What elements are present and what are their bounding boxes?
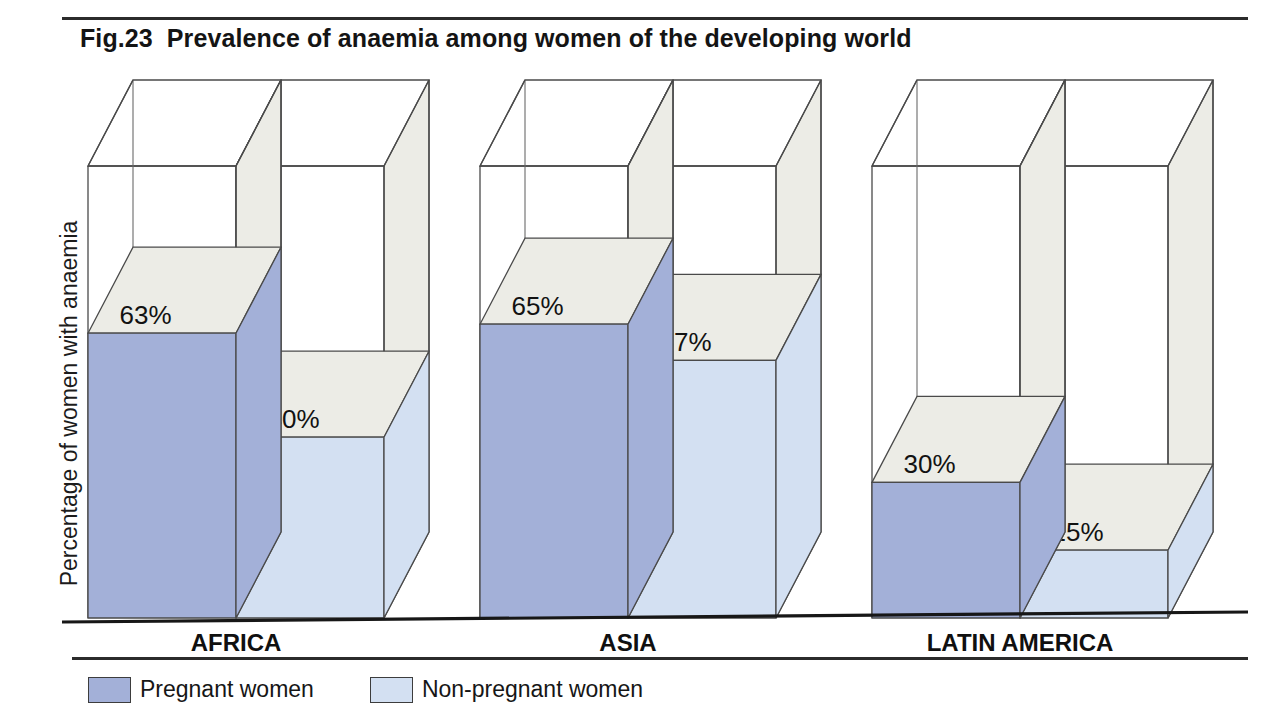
chart-figure: Fig.23Prevalence of anaemia among women … — [0, 0, 1266, 710]
bar-fill-front-face — [872, 482, 1020, 618]
bar-shell-top-left-diagonal — [480, 80, 525, 166]
legend-label-pregnant: Pregnant women — [140, 676, 314, 703]
chart-legend: Pregnant women Non-pregnant women — [88, 676, 643, 703]
bar-asia-pregnant-women: 65% — [480, 80, 673, 618]
category-label: LATIN AMERICA — [927, 629, 1114, 656]
bar-shell-top-left-diagonal — [88, 80, 133, 166]
chart-plot-area: 40%63%AFRICA57%65%ASIA15%30%LATIN AMERIC… — [0, 0, 1266, 710]
legend-swatch-pregnant — [88, 677, 131, 703]
bar-group-asia: 57%65%ASIA — [480, 80, 821, 656]
bar-latin-america-pregnant-women: 30% — [872, 80, 1065, 618]
bar-fill-front-face — [88, 333, 236, 618]
bar-shell-top-left-diagonal — [872, 80, 917, 166]
legend-item-pregnant: Pregnant women — [88, 676, 314, 703]
bar-group-africa: 40%63%AFRICA — [88, 80, 429, 656]
legend-swatch-non-pregnant — [370, 677, 413, 703]
category-label: ASIA — [599, 629, 656, 656]
legend-divider — [72, 657, 1248, 660]
bar-group-latin-america: 15%30%LATIN AMERICA — [872, 80, 1213, 656]
bar-fill-front-face — [480, 324, 628, 618]
bar-africa-pregnant-women: 63% — [88, 80, 281, 618]
bar-value-label: 63% — [120, 300, 172, 330]
legend-item-non-pregnant: Non-pregnant women — [370, 676, 643, 703]
bar-value-label: 30% — [904, 449, 956, 479]
legend-label-non-pregnant: Non-pregnant women — [422, 676, 643, 703]
category-label: AFRICA — [191, 629, 282, 656]
bar-value-label: 65% — [512, 291, 564, 321]
